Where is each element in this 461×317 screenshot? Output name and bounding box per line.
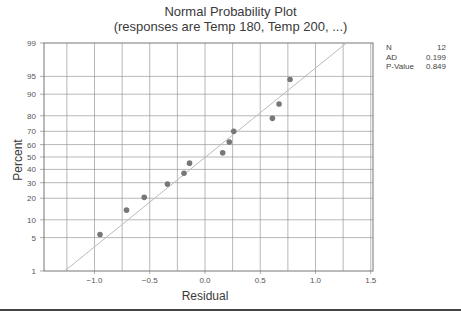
y-tick-label: 5 [32,234,37,243]
x-tick-label: 1.0 [310,276,322,285]
y-tick-label: 20 [27,194,36,203]
data-point [270,116,276,122]
x-tick-label: −1.0 [87,276,103,285]
y-tick-label: 70 [27,127,36,136]
data-point [187,160,193,166]
data-point [220,150,226,156]
x-axis-ticks: −1.0−0.50.00.51.01.5 [87,271,377,285]
y-tick-label: 1 [32,267,37,276]
data-point [276,101,282,107]
bottom-divider [0,309,461,311]
y-tick-label: 30 [27,179,36,188]
data-point [124,207,130,213]
x-axis-label: Residual [182,289,229,303]
data-point [227,139,233,145]
y-tick-label: 10 [27,216,36,225]
data-point [141,195,147,201]
y-tick-label: 90 [27,90,36,99]
y-tick-label: 40 [27,165,36,174]
x-tick-label: −0.5 [142,276,158,285]
data-point [165,181,171,187]
y-tick-label: 99 [27,39,36,48]
y-tick-label: 80 [27,112,36,121]
y-tick-label: 95 [27,72,36,81]
y-axis-ticks: 151020304050607080909599 [27,39,44,276]
stat-ad: AD0.199 [386,53,446,63]
stats-box: N12 AD0.199 P-Value0.849 [386,43,446,72]
data-point [181,170,187,176]
x-tick-label: 0.5 [255,276,267,285]
data-point [287,77,293,83]
data-point [231,129,237,135]
y-tick-label: 60 [27,141,36,150]
x-tick-label: 0.0 [199,276,211,285]
y-axis-label: Percent [11,139,25,181]
stat-n: N12 [386,43,446,53]
stat-p-value: P-Value0.849 [386,62,446,72]
plot-grid [44,43,373,271]
data-point [97,232,103,238]
x-tick-label: 1.5 [365,276,377,285]
y-tick-label: 50 [27,153,36,162]
